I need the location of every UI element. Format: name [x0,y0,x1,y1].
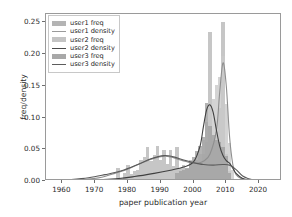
y-tick-mark [42,180,45,181]
legend-label: user2 density [70,44,115,52]
y-tick-label: 0.00 [0,176,40,185]
legend-item[interactable]: user3 density [52,60,115,68]
x-tick-label: 2010 [216,185,234,194]
legend-label: user1 freq [70,19,104,27]
legend-label: user2 freq [70,36,104,44]
x-tick-label: 1960 [52,185,70,194]
legend-item[interactable]: user1 freq [52,19,115,27]
legend-item[interactable]: user3 freq [52,52,115,60]
legend[interactable]: user1 frequser1 densityuser2 frequser2 d… [48,15,120,73]
density-curve [46,105,281,180]
x-tick-label: 1980 [118,185,136,194]
density-curve [46,63,281,180]
density-curve [46,156,281,180]
x-axis-label: paper publication year [45,198,281,207]
x-tick-mark [258,180,259,183]
x-tick-mark [225,180,226,183]
legend-label: user3 density [70,60,115,68]
legend-label: user3 freq [70,52,104,60]
legend-item[interactable]: user2 density [52,44,115,52]
x-tick-mark [127,180,128,183]
y-tick-label: 0.05 [0,144,40,153]
x-tick-mark [160,180,161,183]
x-tick-label: 1970 [85,185,103,194]
legend-label: user1 density [70,27,115,35]
legend-line-icon [52,31,66,32]
x-tick-mark [193,180,194,183]
y-tick-label: 0.10 [0,112,40,121]
legend-line-icon [52,64,66,65]
x-tick-mark [94,180,95,183]
legend-swatch-icon [52,54,66,59]
x-tick-label: 2020 [249,185,267,194]
y-axis-ticks: 0.000.050.100.150.200.25 [0,0,42,217]
y-tick-label: 0.15 [0,80,40,89]
y-tick-label: 0.25 [0,17,40,26]
y-tick-label: 0.20 [0,49,40,58]
legend-swatch-icon [52,37,66,42]
x-tick-label: 2000 [183,185,201,194]
legend-item[interactable]: user1 density [52,27,115,35]
x-tick-label: 1990 [151,185,169,194]
legend-item[interactable]: user2 freq [52,36,115,44]
x-tick-mark [61,180,62,183]
figure: freq/density 0.000.050.100.150.200.25 19… [0,0,292,217]
legend-swatch-icon [52,21,66,26]
legend-line-icon [52,48,66,49]
